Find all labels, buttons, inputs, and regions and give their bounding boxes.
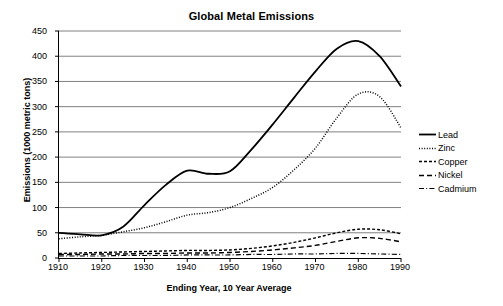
legend-swatch-copper <box>419 157 436 166</box>
legend-item-zinc[interactable]: Zinc <box>419 142 477 156</box>
series-line-lead <box>59 41 401 236</box>
x-tick-label: 1930 <box>133 263 153 272</box>
legend-swatch-zinc <box>419 144 436 153</box>
legend-swatch-nickel <box>419 171 436 180</box>
x-tick-label: 1910 <box>48 263 68 272</box>
x-tick-label: 1970 <box>304 263 324 272</box>
chart-legend: LeadZincCopperNickelCadmium <box>419 128 477 196</box>
plot-area <box>58 31 401 259</box>
legend-swatch-lead <box>419 130 436 139</box>
legend-label: Lead <box>438 130 458 140</box>
legend-label: Copper <box>438 157 468 167</box>
series-line-zinc <box>59 92 401 239</box>
plot-svg <box>59 31 401 258</box>
x-axis-title: Ending Year, 10 Year Average <box>58 283 400 293</box>
legend-item-nickel[interactable]: Nickel <box>419 169 477 183</box>
legend-label: Zinc <box>438 143 455 153</box>
legend-swatch-cadmium <box>419 184 436 193</box>
legend-item-cadmium[interactable]: Cadmium <box>419 182 477 196</box>
legend-label: Cadmium <box>438 184 477 194</box>
x-tick-label: 1950 <box>219 263 239 272</box>
x-tick-label: 1980 <box>347 263 367 272</box>
x-tick-label: 1990 <box>390 263 410 272</box>
x-tick-label: 1960 <box>262 263 282 272</box>
legend-label: Nickel <box>438 170 463 180</box>
legend-item-copper[interactable]: Copper <box>419 155 477 169</box>
legend-item-lead[interactable]: Lead <box>419 128 477 142</box>
chart-container: Global Metal Emissions Emissions (1000 m… <box>0 0 503 306</box>
x-tick-label: 1940 <box>176 263 196 272</box>
x-tick-label: 1920 <box>91 263 111 272</box>
